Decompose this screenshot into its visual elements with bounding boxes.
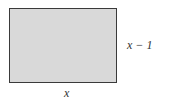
rectangle [9,8,117,83]
height-label: x − 1 [127,38,152,53]
width-label: x [64,86,69,101]
